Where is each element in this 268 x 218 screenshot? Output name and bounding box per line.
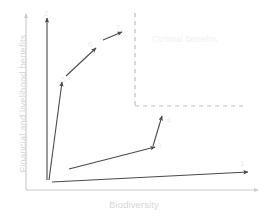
- x-axis-label: Biodiversity: [0, 199, 268, 210]
- arrow-label-6: 6: [88, 41, 92, 49]
- arrow-1: [52, 172, 248, 182]
- diagram-canvas: [0, 0, 268, 218]
- arrow-label-7: 7: [116, 24, 120, 32]
- arrow-7: [103, 32, 122, 40]
- axes: [26, 14, 258, 190]
- arrow-3: [69, 147, 155, 169]
- arrow-label-5: 5: [61, 76, 65, 84]
- optimal-benefits-boundary: [135, 13, 247, 106]
- arrow-label-4: 4: [166, 117, 170, 125]
- arrow-5: [49, 82, 62, 180]
- arrow-label-2: 2: [44, 10, 48, 18]
- optimal-benefits-label: Optimal benefits: [152, 34, 217, 44]
- y-axis-label: Financial and livelihood benefits: [17, 24, 28, 184]
- conceptual-diagram: Optimal benefits 1 2 3 4 5 6 7 Biodivers…: [0, 0, 268, 218]
- arrow-6: [66, 48, 96, 76]
- arrow-label-1: 1: [240, 160, 244, 168]
- trajectory-arrows: [47, 18, 248, 182]
- arrow-label-3: 3: [157, 142, 161, 150]
